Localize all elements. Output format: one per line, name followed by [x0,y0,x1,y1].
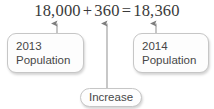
callout-2014-population: 2014 Population [133,33,209,73]
callout-right-line2: Population [142,53,208,67]
callout-middle-line1: Increase [81,89,141,106]
callout-left-line1: 2013 [16,39,83,53]
callout-left-line2: Population [16,53,83,67]
callout-increase: Increase [80,88,142,107]
diagram-canvas: 18,000+360=18,360 2013 Population 2014 P… [0,0,214,109]
callout-2013-population: 2013 Population [7,33,84,73]
callout-right-line1: 2014 [142,39,208,53]
